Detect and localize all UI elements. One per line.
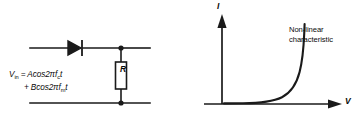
- input-voltage-label-line2: + Bcos2πfmt: [24, 84, 68, 93]
- carrier-freq-subscript: c: [57, 74, 60, 80]
- circuit-schematic: [0, 0, 181, 124]
- modulation-freq-subscript: m: [61, 87, 66, 93]
- y-axis-arrowhead: [217, 14, 226, 28]
- diode-symbol: [68, 40, 82, 56]
- junction-dot-bottom: [118, 100, 123, 105]
- curve-annotation-line2: characteristic: [289, 35, 333, 45]
- x-axis-arrowhead: [328, 99, 342, 108]
- y-axis-label: I: [217, 2, 219, 11]
- diode-rectifier-circuit-panel: Vin = Acos2πfct + Bcos2πfmt R: [0, 0, 181, 124]
- curve-annotation-line1: Non-linear: [289, 25, 333, 35]
- y-axis: [217, 14, 226, 104]
- iv-characteristic-panel: I V Non-linear characteristic: [181, 0, 362, 124]
- diode-anode-triangle: [68, 41, 81, 55]
- iv-curve-plot: [181, 0, 362, 124]
- resistor-label: R: [120, 65, 126, 74]
- input-voltage-label: Vin = Acos2πfct: [9, 71, 62, 80]
- curve-annotation: Non-linear characteristic: [289, 25, 333, 44]
- vin-time-var: t: [60, 70, 62, 79]
- modulation-time-var: t: [65, 83, 67, 92]
- vin-expression: = Acos2πf: [19, 70, 58, 79]
- figure-container: Vin = Acos2πfct + Bcos2πfmt R I V Non-li…: [0, 0, 362, 124]
- vin-subscript: in: [14, 74, 18, 80]
- modulation-expression: + Bcos2πf: [24, 83, 61, 92]
- junction-dot-top: [118, 45, 123, 50]
- x-axis-label: V: [345, 97, 351, 106]
